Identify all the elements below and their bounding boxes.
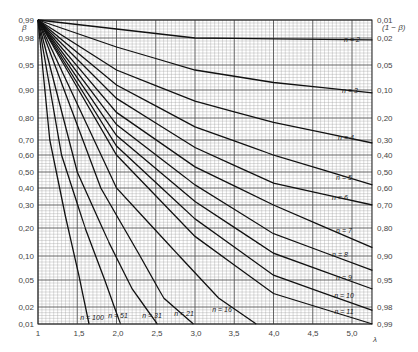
- curve-n8: [38, 20, 372, 270]
- x-tick-label: 4,0: [268, 329, 280, 338]
- y-tick-label-right: 0,98: [377, 303, 393, 312]
- y-tick-label-left: 0,01: [18, 320, 34, 329]
- y-tick-label-right: 0,50: [377, 168, 393, 177]
- x-tick-label: 5,0: [346, 329, 358, 338]
- y-tick-label-left: 0,80: [18, 114, 34, 123]
- y-tick-label-right: 0,02: [377, 34, 393, 43]
- curve-label: n = 16: [212, 306, 232, 313]
- y-tick-label-right: 0,20: [377, 114, 393, 123]
- y-tick-label-right: 0,95: [377, 276, 393, 285]
- curve-label: n = 5: [336, 174, 352, 181]
- y-tick-label-left: 0,40: [18, 184, 34, 193]
- y-tick-label-left: 0,30: [18, 201, 34, 210]
- y-tick-label-left: 0,95: [18, 61, 34, 70]
- curve-label: n = 51: [108, 312, 128, 319]
- y-tick-label-right: 0,30: [377, 136, 393, 145]
- curve-n6: [38, 20, 372, 205]
- curve-label: n = 21: [174, 310, 194, 317]
- y-tick-label-right: 0,70: [377, 201, 393, 210]
- x-axis-title: λ: [372, 335, 377, 344]
- curve-label: n = 9: [336, 274, 352, 281]
- x-tick-label: 1: [36, 329, 41, 338]
- x-tick-label: 2,0: [112, 329, 124, 338]
- y-tick-label-left: 0,10: [18, 252, 34, 261]
- y-axis-right-title: (1 − β): [382, 23, 406, 32]
- y-tick-label-right: 0,40: [377, 151, 393, 160]
- y-tick-label-left: 0,90: [18, 86, 34, 95]
- y-tick-label-left: 0,50: [18, 168, 34, 177]
- x-tick-label: 3,0: [190, 329, 202, 338]
- x-tick-label: 1,5: [73, 329, 85, 338]
- x-tick-label: 3,5: [228, 329, 240, 338]
- y-tick-label-left: 0,60: [18, 151, 34, 160]
- y-tick-label-left: 0,98: [18, 34, 34, 43]
- curve-label: n = 2: [344, 36, 360, 43]
- y-tick-label-left: 0,20: [18, 224, 34, 233]
- y-tick-label-left: 0,70: [18, 136, 34, 145]
- curve-label: n = 3: [342, 87, 358, 94]
- y-tick-label-right: 0,05: [377, 61, 393, 70]
- y-tick-label-right: 0,90: [377, 252, 393, 261]
- curve-label: n = 31: [142, 312, 162, 319]
- y-tick-label-right: 0,99: [377, 320, 393, 329]
- curve-label: n = 100: [80, 314, 104, 321]
- curve-label: n = 11: [334, 308, 353, 315]
- y-axis-left-title: β: [21, 23, 27, 32]
- y-tick-label-left: 0,05: [18, 276, 34, 285]
- x-tick-label: 2,5: [151, 329, 163, 338]
- curve-label: n = 10: [334, 292, 354, 299]
- curve-n3: [38, 20, 372, 93]
- y-axis-left-ticks: 0,990,980,950,900,800,700,600,500,400,30…: [18, 16, 34, 329]
- y-tick-label-right: 0,60: [377, 184, 393, 193]
- curve-n10: [38, 20, 372, 310]
- y-tick-label-right: 0,80: [377, 224, 393, 233]
- x-axis-ticks: 11,52,02,53,03,54,04,55,0: [36, 329, 358, 338]
- curve-label: n = 8: [332, 251, 348, 258]
- operating-characteristic-chart: n = 2n = 3n = 4n = 5n = 6n = 7n = 8n = 9…: [0, 0, 418, 352]
- curve-label: n = 7: [336, 227, 353, 234]
- y-tick-label-left: 0,02: [18, 303, 34, 312]
- curve-label: n = 4: [338, 134, 354, 141]
- x-tick-label: 4,5: [307, 329, 319, 338]
- curve-label: n = 6: [332, 194, 348, 201]
- y-axis-right-ticks: 0,010,020,050,100,200,300,400,500,600,70…: [377, 16, 393, 329]
- y-tick-label-right: 0,10: [377, 86, 393, 95]
